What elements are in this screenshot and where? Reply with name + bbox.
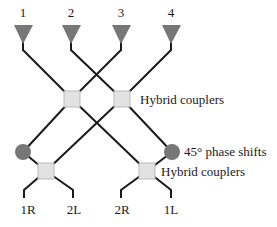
input-antennas <box>14 25 181 44</box>
annotation-phase-shifts: 45° phase shifts <box>184 144 266 159</box>
wire-input-2 <box>71 42 122 99</box>
phase-shift-left-icon <box>15 144 31 160</box>
wire-input-4 <box>122 42 171 99</box>
input-label-1: 1 <box>20 5 27 20</box>
hybrid-coupler-top-left <box>64 91 80 107</box>
phase-shift-right-icon <box>164 144 180 160</box>
hybrid-coupler-bottom-left <box>38 163 54 179</box>
antenna-1-icon <box>14 25 33 44</box>
input-label-3: 3 <box>118 5 125 20</box>
output-label-1L: 1L <box>164 202 179 217</box>
antenna-3-icon <box>112 25 131 44</box>
diagram-canvas: 1 2 3 4 Hybrid couplers 45° phase shifts… <box>0 0 277 227</box>
hybrid-coupler-bottom-right <box>139 163 155 179</box>
output-label-2L: 2L <box>67 202 82 217</box>
annotation-top-hybrid-couplers: Hybrid couplers <box>140 92 224 107</box>
antenna-2-icon <box>62 25 81 44</box>
antenna-4-icon <box>162 25 181 44</box>
wire-input-1 <box>23 42 72 99</box>
input-label-2: 2 <box>68 5 75 20</box>
output-label-2R: 2R <box>114 202 130 217</box>
hybrid-coupler-top-right <box>114 91 130 107</box>
output-label-1R: 1R <box>20 202 36 217</box>
annotation-bottom-hybrid-couplers: Hybrid couplers <box>161 164 245 179</box>
input-label-4: 4 <box>168 5 175 20</box>
